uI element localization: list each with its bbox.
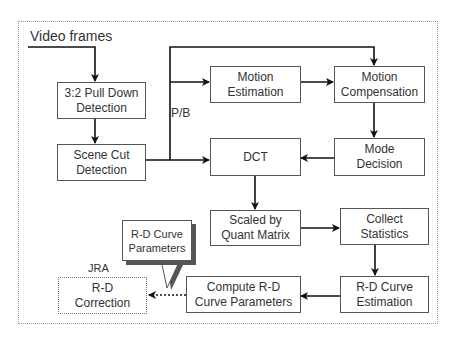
node-motion-compensation: MotionCompensation bbox=[334, 66, 425, 103]
node-text: Statistics bbox=[360, 227, 408, 242]
node-compute-rd-curve-parameters: Compute R-DCurve Parameters bbox=[186, 276, 301, 313]
callout-text: R-D Curve bbox=[129, 227, 186, 241]
node-text: Detection bbox=[64, 101, 138, 116]
node-text: Detection bbox=[73, 163, 129, 178]
node-motion-estimation: MotionEstimation bbox=[210, 66, 301, 103]
node-text: Estimation bbox=[227, 85, 283, 100]
node-scene-cut-detection: Scene CutDetection bbox=[57, 144, 146, 181]
node-rd-correction: R-DCorrection bbox=[58, 277, 147, 314]
jra-label: JRA bbox=[88, 262, 109, 274]
node-rd-curve-estimation: R-D CurveEstimation bbox=[340, 276, 429, 313]
node-dct: DCT bbox=[210, 138, 301, 176]
node-pulldown-detection: 3:2 Pull DownDetection bbox=[57, 82, 146, 119]
node-text: Compensation bbox=[341, 85, 418, 100]
node-text: Correction bbox=[75, 296, 130, 311]
node-text: Motion bbox=[341, 70, 418, 85]
node-text: Estimation bbox=[356, 295, 413, 310]
node-text: Compute R-D bbox=[195, 280, 292, 295]
node-text: R-D Curve bbox=[356, 280, 413, 295]
pb-label: P/B bbox=[171, 106, 190, 120]
node-scaled-by-quant-matrix: Scaled byQuant Matrix bbox=[210, 210, 301, 246]
rd-parameters-callout: R-D CurveParameters bbox=[122, 220, 192, 261]
node-text: Curve Parameters bbox=[195, 295, 292, 310]
node-text: Decision bbox=[356, 157, 402, 172]
node-collect-statistics: CollectStatistics bbox=[340, 208, 429, 245]
callout-text: Parameters bbox=[129, 241, 186, 255]
node-text: Quant Matrix bbox=[221, 228, 290, 243]
node-text: R-D bbox=[75, 281, 130, 296]
node-text: DCT bbox=[243, 150, 268, 165]
node-text: Scaled by bbox=[221, 213, 290, 228]
node-text: Mode bbox=[356, 142, 402, 157]
node-text: Collect bbox=[360, 212, 408, 227]
node-text: 3:2 Pull Down bbox=[64, 86, 138, 101]
node-text: Scene Cut bbox=[73, 148, 129, 163]
node-text: Motion bbox=[227, 70, 283, 85]
input-label: Video frames bbox=[30, 28, 112, 44]
node-mode-decision: ModeDecision bbox=[334, 138, 425, 176]
